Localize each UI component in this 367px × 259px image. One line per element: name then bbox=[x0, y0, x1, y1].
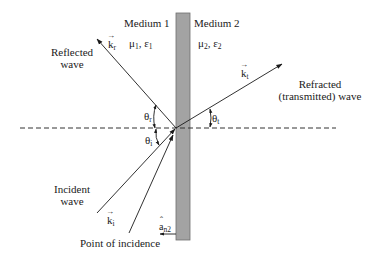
reflected-line2: wave bbox=[50, 58, 94, 70]
reflected-wave-label: Reflected wave bbox=[50, 46, 94, 70]
a-hat-symbol: a bbox=[159, 221, 163, 233]
k-r-vector-label: kr bbox=[108, 38, 116, 54]
epsilon-subscript: 1 bbox=[149, 42, 153, 51]
point-of-incidence-label: Point of incidence bbox=[80, 237, 160, 249]
medium-2-label: Medium 2 bbox=[194, 17, 240, 29]
theta-subscript: r bbox=[149, 115, 152, 124]
medium-1-params: μ1, ε1 bbox=[129, 37, 153, 53]
refracted-line1: Refracted bbox=[276, 78, 364, 90]
k-vector-symbol: k bbox=[241, 67, 247, 79]
incident-wave-label: Incident wave bbox=[52, 183, 92, 207]
theta-subscript: i bbox=[150, 139, 152, 148]
incident-ray bbox=[97, 129, 175, 213]
a-n2-label: an2 bbox=[159, 221, 171, 236]
refracted-wave-label: Refracted (transmitted) wave bbox=[276, 78, 364, 102]
k-t-vector-label: kt bbox=[241, 67, 249, 83]
k-vector-symbol: k bbox=[108, 38, 114, 50]
reflected-line1: Reflected bbox=[50, 46, 94, 58]
k-i-vector-label: ki bbox=[107, 214, 115, 230]
theta-i-arc bbox=[156, 129, 159, 145]
incident-line1: Incident bbox=[52, 183, 92, 195]
medium-2-params: μ2, ε2 bbox=[198, 37, 222, 53]
theta-subscript: t bbox=[217, 117, 219, 126]
theta-r-arc bbox=[154, 105, 156, 128]
theta-r-label: θr bbox=[144, 110, 152, 126]
diagram-graphics bbox=[0, 0, 367, 259]
refracted-line2: (transmitted) wave bbox=[276, 90, 364, 102]
refracted-ray bbox=[176, 64, 282, 128]
incident-line2: wave bbox=[52, 195, 92, 207]
medium-1-label: Medium 1 bbox=[124, 17, 170, 29]
theta-i-label: θi bbox=[145, 134, 152, 150]
a-subscript: n2 bbox=[163, 225, 171, 234]
epsilon-subscript: 2 bbox=[218, 42, 222, 51]
reflection-refraction-diagram: Medium 1 μ1, ε1 Medium 2 μ2, ε2 Reflecte… bbox=[0, 0, 367, 259]
k-vector-symbol: k bbox=[107, 214, 113, 226]
theta-t-label: θt bbox=[212, 112, 219, 128]
theta-t-arc bbox=[210, 109, 211, 127]
